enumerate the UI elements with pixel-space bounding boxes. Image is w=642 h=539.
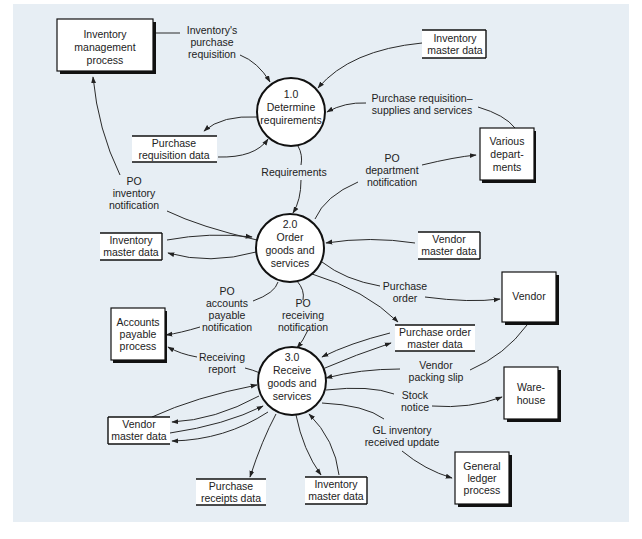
entity-label: Various bbox=[490, 135, 525, 147]
flow-line bbox=[322, 403, 384, 419]
flow-line bbox=[172, 412, 268, 441]
store-inventory-master-top: Inventory master data bbox=[422, 30, 486, 58]
flow-label-text: payable bbox=[209, 309, 246, 321]
flow-line bbox=[470, 325, 527, 370]
store-inventory-master-bottom: Inventory master data bbox=[305, 477, 367, 504]
flow-line bbox=[168, 252, 256, 259]
flow-line bbox=[245, 368, 260, 373]
process-3-receive-goods: 3.0 Receive goods and services bbox=[258, 347, 326, 415]
process-number: 1.0 bbox=[284, 88, 299, 100]
store-label: master data bbox=[421, 245, 477, 257]
data-flow-diagram: Inventory management process Various dep… bbox=[0, 0, 642, 539]
entity-label: ledger bbox=[467, 472, 497, 484]
store-label: Purchase bbox=[209, 480, 254, 492]
flow-label-text: report bbox=[208, 363, 236, 375]
flow-line bbox=[327, 103, 366, 112]
entity-label: Inventory bbox=[83, 28, 127, 40]
store-label: master data bbox=[308, 490, 364, 502]
store-label: master data bbox=[103, 246, 159, 258]
flow-line bbox=[93, 77, 120, 175]
store-purchase-receipts: Purchase receipts data bbox=[196, 479, 266, 505]
flow-line bbox=[326, 240, 415, 244]
entity-label: Vendor bbox=[512, 290, 546, 302]
store-vendor-master-bottom: Vendor master data bbox=[108, 417, 170, 444]
flow-label-text: PO bbox=[219, 285, 234, 297]
flow-label-text: notification bbox=[367, 176, 417, 188]
flow-label-text: packing slip bbox=[409, 371, 464, 383]
flow-line bbox=[318, 43, 422, 88]
flow-line bbox=[240, 55, 270, 82]
flow-line bbox=[152, 385, 257, 417]
flow-label-text: department bbox=[365, 164, 418, 176]
flow-label-text: Stock bbox=[402, 389, 429, 401]
entity-inventory-management: Inventory management process bbox=[57, 19, 156, 74]
flow-label-text: notification bbox=[278, 321, 328, 333]
flow-label-po-inventory-notification: PO inventory notification bbox=[109, 175, 159, 211]
store-label: master data bbox=[407, 338, 463, 350]
flow-line bbox=[478, 107, 515, 128]
flow-line bbox=[170, 406, 263, 433]
entity-warehouse: Ware- house bbox=[504, 367, 561, 422]
flow-line bbox=[325, 343, 391, 368]
store-label: Inventory bbox=[314, 478, 358, 490]
flow-line bbox=[326, 369, 400, 378]
flow-line bbox=[293, 180, 301, 213]
flow-label-inventory-purchase-requisition: Inventory's purchase requisition bbox=[187, 24, 237, 60]
entity-label: process bbox=[464, 484, 501, 496]
store-inventory-master-mid: Inventory master data bbox=[100, 233, 162, 260]
flow-label-text: GL inventory bbox=[372, 424, 432, 436]
process-number: 3.0 bbox=[285, 351, 300, 363]
store-vendor-master-mid: Vendor master data bbox=[418, 232, 480, 259]
process-label: goods and bbox=[265, 244, 314, 256]
store-label: Purchase bbox=[152, 137, 197, 149]
flow-line bbox=[253, 282, 278, 301]
flow-label-text: PO bbox=[295, 297, 310, 309]
flow-label-receiving-report: Receiving report bbox=[199, 351, 245, 375]
flow-line bbox=[298, 146, 302, 165]
flow-line bbox=[166, 327, 200, 335]
flow-label-text: Receiving bbox=[199, 351, 245, 363]
process-1-determine-requirements: 1.0 Determine requirements bbox=[257, 78, 325, 146]
flow-label-text: Purchase requisition– bbox=[372, 92, 473, 104]
flow-label-purchase-requisition-supplies: Purchase requisition– supplies and servi… bbox=[372, 92, 473, 116]
entity-accounts-payable: Accounts payable process bbox=[111, 308, 167, 363]
flow-label-text: requisition bbox=[188, 48, 236, 60]
process-label: Receive bbox=[273, 364, 311, 376]
flow-line bbox=[167, 235, 252, 240]
store-purchase-requisition-data: Purchase requisition data bbox=[132, 136, 217, 162]
entity-vendor: Vendor bbox=[502, 272, 559, 325]
entity-label: house bbox=[517, 394, 546, 406]
store-label: requisition data bbox=[138, 149, 209, 161]
entity-general-ledger: General ledger process bbox=[455, 452, 512, 507]
flow-label-text: inventory bbox=[113, 187, 156, 199]
flow-label-text: notification bbox=[109, 199, 159, 211]
entity-label: depart- bbox=[490, 148, 524, 160]
flow-line bbox=[168, 347, 197, 357]
flow-line bbox=[218, 139, 268, 157]
flow-line bbox=[309, 414, 339, 475]
flow-line bbox=[432, 397, 502, 407]
process-label: goods and bbox=[267, 377, 316, 389]
store-label: master data bbox=[111, 430, 167, 442]
flow-line bbox=[402, 451, 452, 478]
store-label: Inventory bbox=[109, 234, 153, 246]
process-number: 2.0 bbox=[283, 218, 298, 230]
flow-label-text: PO bbox=[384, 152, 399, 164]
flow-label-text: received update bbox=[365, 436, 440, 448]
flow-label-text: purchase bbox=[190, 36, 233, 48]
flow-label-text: accounts bbox=[206, 297, 248, 309]
flow-line bbox=[296, 415, 321, 475]
flow-line bbox=[422, 155, 476, 165]
flow-line bbox=[326, 388, 394, 394]
flow-label-text: receiving bbox=[282, 309, 324, 321]
flow-label-text: order bbox=[393, 292, 418, 304]
flow-label-gl-inventory-update: GL inventory received update bbox=[365, 424, 440, 448]
store-label: Vendor bbox=[432, 233, 466, 245]
store-label: master data bbox=[427, 44, 483, 56]
process-label: requirements bbox=[260, 114, 321, 126]
process-label: services bbox=[271, 257, 310, 269]
store-label: receipts data bbox=[201, 492, 261, 504]
flow-label-text: Requirements bbox=[261, 166, 326, 178]
flow-line bbox=[315, 182, 358, 219]
flow-label-text: Purchase bbox=[383, 280, 428, 292]
